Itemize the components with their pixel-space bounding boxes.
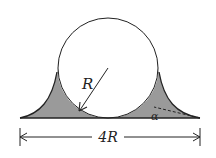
width-label: 4R <box>97 129 118 145</box>
diagram-canvas: R α 4R <box>0 0 216 158</box>
radius-label: R <box>81 75 93 93</box>
angle-label: α <box>151 110 159 123</box>
